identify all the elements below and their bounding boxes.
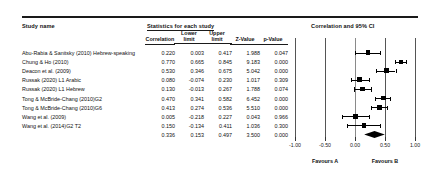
ci-cap-lower [395, 60, 396, 64]
axis-tick [355, 137, 356, 141]
study-name-cell: Tong & McBride-Chang (2010)G2 [22, 96, 102, 102]
cell-z-value: 1.988 [230, 50, 260, 56]
study-name-cell: Tong & McBride-Chang (2010)G6 [22, 105, 102, 111]
ci-cap-lower [355, 51, 356, 55]
reference-line-0p5 [385, 38, 386, 138]
cell-lower-limit: 0.341 [174, 96, 204, 102]
cell-lower-limit: -0.013 [174, 86, 204, 92]
ci-cap-lower [371, 106, 372, 110]
ci-cap-upper [369, 78, 370, 82]
cell-lower-limit: 0.153 [174, 132, 204, 138]
header-plot-group: Correlation and 95% CI [311, 23, 374, 29]
axis-tick [295, 137, 296, 141]
ci-cap-upper [406, 60, 407, 64]
cell-correlation: 0.530 [145, 68, 175, 74]
axis-tick [325, 137, 326, 141]
cell-lower-limit: 0.003 [174, 50, 204, 56]
column-header-upper-limit: Upperlimit [202, 30, 232, 44]
study-name-cell: Russak (2020) L1 Arabic [22, 77, 81, 83]
cell-z-value: 9.183 [230, 59, 260, 65]
cell-upper-limit: 0.230 [202, 77, 232, 83]
effect-size-marker [366, 50, 371, 55]
cell-upper-limit: 0.536 [202, 105, 232, 111]
cell-upper-limit: 0.417 [202, 50, 232, 56]
effect-size-marker [357, 77, 362, 82]
ci-cap-upper [387, 106, 388, 110]
effect-size-marker [381, 96, 386, 101]
cell-lower-limit: -0.134 [174, 123, 204, 129]
ci-cap-lower [376, 69, 377, 73]
cell-upper-limit: 0.845 [202, 59, 232, 65]
ci-cap-upper [371, 87, 372, 91]
cell-correlation: 0.220 [145, 50, 175, 56]
cell-correlation: 0.130 [145, 86, 175, 92]
axis-tick-label: 1.00 [410, 142, 420, 148]
ci-cap-upper [390, 97, 391, 101]
effect-size-marker [399, 60, 403, 64]
ci-cap-upper [380, 124, 381, 128]
cell-z-value: 1.788 [230, 86, 260, 92]
reference-line--0p5 [325, 38, 326, 138]
top-rule [22, 16, 418, 18]
cell-upper-limit: 0.227 [202, 114, 232, 120]
cell-correlation: 0.470 [145, 96, 175, 102]
cell-upper-limit: 0.411 [202, 123, 232, 129]
cell-lower-limit: -0.074 [174, 77, 204, 83]
axis-tick-label: -0.50 [319, 142, 331, 148]
cell-z-value: 5.042 [230, 68, 260, 74]
cell-correlation: 0.150 [145, 123, 175, 129]
axis-tick [415, 137, 416, 141]
ci-cap-lower [354, 87, 355, 91]
cell-correlation: 0.080 [145, 77, 175, 83]
ci-cap-upper [396, 69, 397, 73]
effect-size-marker [384, 68, 389, 73]
ci-cap-upper [380, 51, 381, 55]
ci-cap-lower [347, 124, 348, 128]
axis-tick [385, 137, 386, 141]
axis-tick-label: -1.00 [289, 142, 301, 148]
column-header-z-value: Z-Value [230, 36, 260, 44]
ci-cap-upper [369, 115, 370, 119]
cell-correlation: 0.413 [145, 105, 175, 111]
cell-z-value: 1.036 [230, 123, 260, 129]
cell-lower-limit: -0.218 [174, 114, 204, 120]
cell-upper-limit: 0.497 [202, 132, 232, 138]
effect-size-marker [362, 123, 366, 127]
cell-correlation: 0.005 [145, 114, 175, 120]
ci-cap-lower [375, 97, 376, 101]
ci-cap-lower [342, 115, 343, 119]
axis-tick-label: 0.00 [350, 142, 360, 148]
effect-size-marker [377, 105, 382, 110]
cell-upper-limit: 0.582 [202, 96, 232, 102]
study-name-cell: Chung & Ho (2010) [22, 59, 68, 65]
x-axis [280, 137, 430, 138]
cell-correlation: 0.770 [145, 59, 175, 65]
column-header-correlation: Correlation [145, 36, 175, 44]
study-name-cell: Deacon et al. (2009) [22, 68, 71, 74]
cell-z-value: 0.043 [230, 114, 260, 120]
study-name-cell: Wang et al. (2009) [22, 114, 66, 120]
cell-lower-limit: 0.274 [174, 105, 204, 111]
cell-upper-limit: 0.675 [202, 68, 232, 74]
cell-lower-limit: 0.346 [174, 68, 204, 74]
cell-z-value: 6.452 [230, 96, 260, 102]
reference-line-1 [415, 38, 416, 138]
forest-plot-figure: Study name Statistics for each study Cor… [0, 0, 440, 184]
study-name-cell: Wang et al. (2014)G2 T2 [22, 123, 81, 129]
favours-right-label: Favours B [372, 158, 398, 164]
reference-line--1 [295, 38, 296, 138]
cell-z-value: 3.500 [230, 132, 260, 138]
cell-correlation: 0.336 [145, 132, 175, 138]
plot-area [280, 38, 430, 138]
header-study-name: Study name [22, 23, 55, 29]
ci-cap-lower [351, 78, 352, 82]
axis-tick-label: 0.50 [380, 142, 390, 148]
study-name-cell: Russak (2020) L1 Hebrew [22, 86, 85, 92]
cell-lower-limit: 0.665 [174, 59, 204, 65]
cell-z-value: 1.017 [230, 77, 260, 83]
cell-z-value: 5.510 [230, 105, 260, 111]
column-header-lower-limit: Lowerlimit [174, 30, 204, 44]
favours-left-label: Favours A [312, 158, 338, 164]
effect-size-marker [353, 114, 358, 119]
study-name-cell: Abu-Rabia & Sanitsky (2010) Hebrew-speak… [22, 50, 135, 56]
